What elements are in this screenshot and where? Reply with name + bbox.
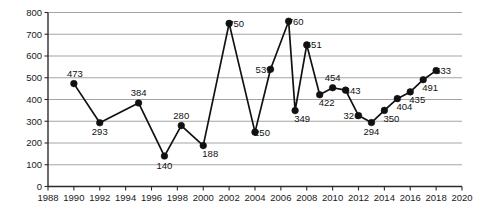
x-axis-tick-label-2004: 2004 — [244, 192, 265, 203]
data-point-label: 188 — [202, 148, 218, 159]
x-axis-tick-label-1990: 1990 — [63, 192, 84, 203]
data-point-label: 140 — [157, 160, 173, 171]
data-point[interactable] — [161, 153, 168, 160]
data-point[interactable] — [71, 80, 78, 87]
data-point[interactable] — [178, 122, 185, 129]
data-point-label: 539 — [256, 64, 272, 75]
y-axis-tick-label-0: 0 — [37, 181, 42, 192]
data-point-label: 454 — [325, 72, 341, 83]
data-point-label: 250 — [254, 127, 270, 138]
data-point-label: 533 — [435, 65, 451, 76]
x-axis-tick-label-2010: 2010 — [322, 192, 343, 203]
data-point-label: 491 — [422, 82, 438, 93]
data-point-label: 349 — [294, 113, 310, 124]
x-axis-tick-label-1992: 1992 — [89, 192, 110, 203]
data-point-label: 422 — [319, 97, 335, 108]
x-axis-tick-label-2018: 2018 — [426, 192, 447, 203]
data-point[interactable] — [135, 100, 142, 107]
data-point-label: 473 — [67, 68, 83, 79]
x-axis-tick-label-2014: 2014 — [374, 192, 395, 203]
y-axis-tick-label-500: 500 — [26, 72, 42, 83]
x-axis-tick-label-1996: 1996 — [141, 192, 162, 203]
y-axis-tick-label-400: 400 — [26, 94, 42, 105]
data-point[interactable] — [96, 119, 103, 126]
x-axis-tick-label-2000: 2000 — [193, 192, 214, 203]
data-point-label: 651 — [306, 39, 322, 50]
x-axis-tick-label-2012: 2012 — [348, 192, 369, 203]
x-axis-tick-label-1994: 1994 — [115, 192, 136, 203]
data-point-label: 443 — [345, 85, 361, 96]
data-point-label: 384 — [131, 87, 147, 98]
x-axis-tick-label-1998: 1998 — [167, 192, 188, 203]
data-point-label: 294 — [364, 126, 380, 137]
y-axis-tick-label-700: 700 — [26, 29, 42, 40]
y-axis-tick-label-600: 600 — [26, 50, 42, 61]
data-point[interactable] — [368, 119, 375, 126]
data-point-label: 280 — [173, 110, 189, 121]
data-point-label: 350 — [383, 113, 399, 124]
data-point-label: 326 — [344, 110, 360, 121]
y-axis-tick-label-300: 300 — [26, 116, 42, 127]
x-axis-tick-label-2002: 2002 — [219, 192, 240, 203]
data-point[interactable] — [329, 84, 336, 91]
x-axis-tick-label-2020: 2020 — [451, 192, 472, 203]
y-axis-tick-label-100: 100 — [26, 159, 42, 170]
x-axis-tick-label-2008: 2008 — [296, 192, 317, 203]
data-point-label: 435 — [409, 94, 425, 105]
line-chart: 0100200300400500600700800198819901992199… — [0, 0, 487, 219]
y-axis-tick-label-800: 800 — [26, 7, 42, 18]
y-axis-tick-label-200: 200 — [26, 137, 42, 148]
chart-canvas: 0100200300400500600700800198819901992199… — [0, 0, 487, 219]
data-point-label: 760 — [288, 16, 304, 27]
x-axis-tick-label-1988: 1988 — [37, 192, 58, 203]
data-point-label: 750 — [228, 18, 244, 29]
x-axis-tick-label-2006: 2006 — [270, 192, 291, 203]
x-axis-tick-label-2016: 2016 — [400, 192, 421, 203]
data-point-label: 293 — [92, 126, 108, 137]
